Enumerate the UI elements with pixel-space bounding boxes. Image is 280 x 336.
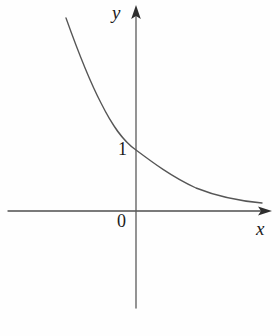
origin-label: 0 xyxy=(117,212,126,230)
x-axis-label: x xyxy=(256,219,264,238)
y-axis-label: y xyxy=(112,3,120,22)
y-intercept-tick-label: 1 xyxy=(118,140,127,158)
exponential-decay-curve xyxy=(66,18,262,203)
coordinate-plane-svg xyxy=(0,0,280,336)
exponential-decay-graph-figure: y x 1 0 xyxy=(0,0,280,336)
